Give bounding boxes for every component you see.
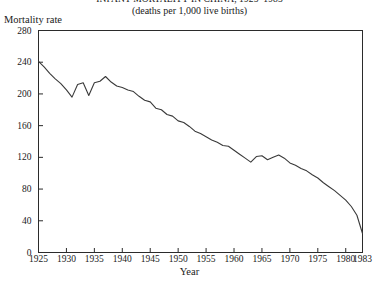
x-tick-label: 1940 [113, 254, 132, 264]
plot-area [0, 0, 379, 283]
y-tick-label: 160 [0, 121, 32, 131]
x-tick-label: 1955 [197, 254, 216, 264]
x-tick-label: 1975 [308, 254, 327, 264]
chart-figure: INFANT MORTALITY IN CHINA, 1925–1983 (de… [0, 0, 379, 283]
x-tick-label: 1935 [85, 254, 104, 264]
x-tick-label: 1960 [225, 254, 244, 264]
x-tick-label: 1970 [280, 254, 299, 264]
x-tick-label: 1945 [141, 254, 160, 264]
y-tick-label: 40 [0, 216, 32, 226]
x-axis-label: Year [0, 266, 379, 277]
axis-ticks [39, 31, 363, 253]
y-tick-label: 200 [0, 89, 32, 99]
y-tick-label: 120 [0, 152, 32, 162]
data-series-line [39, 61, 363, 233]
x-tick-label: 1965 [252, 254, 271, 264]
axis-frame [39, 31, 363, 253]
y-tick-label: 0 [0, 248, 32, 258]
y-tick-label: 240 [0, 57, 32, 67]
y-axis-label: Mortality rate [4, 14, 62, 25]
x-tick-label: 1950 [169, 254, 188, 264]
plot-frame [39, 31, 363, 253]
x-tick-label: 1983 [353, 254, 372, 264]
y-tick-label: 280 [0, 26, 32, 36]
x-tick-label: 1925 [29, 254, 48, 264]
y-tick-label: 80 [0, 184, 32, 194]
x-tick-label: 1930 [57, 254, 76, 264]
